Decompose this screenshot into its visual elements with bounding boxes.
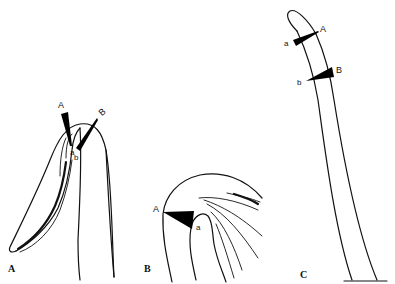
panel-c-marker-a-wedge <box>293 31 319 46</box>
panel-c-tip <box>288 11 316 34</box>
panel-b-label: B <box>144 263 151 274</box>
panel-a-marker-b-label: B <box>96 106 107 118</box>
panel-a-marker-b-tip-label: b <box>74 153 79 162</box>
panel-a-stalk-right <box>106 150 114 277</box>
panel-b-fan-line-5 <box>211 212 242 270</box>
panel-a-lower-lobe <box>16 128 80 251</box>
panel-a-marker-a-label: A <box>58 100 64 110</box>
panel-b-marker-a-label: A <box>153 204 159 214</box>
panel-c-marker-b-tip-label: b <box>297 78 302 87</box>
panel-a: A a B b A <box>8 100 114 280</box>
panel-c-marker-a-tip-label: a <box>284 39 289 48</box>
panel-b-marker-a-tip-label: a <box>196 223 201 232</box>
panel-c-label: C <box>300 269 307 280</box>
panel-a-marker-b-wedge <box>76 118 98 151</box>
panel-a-label: A <box>8 263 16 274</box>
diagram-canvas: A a B b A A a B <box>0 0 395 284</box>
panel-b-marker-a-wedge <box>163 211 194 229</box>
panel-b-fan-line-6 <box>216 224 234 278</box>
panel-b-fan-line-4 <box>207 204 258 258</box>
panel-a-marker-a-wedge <box>61 112 72 146</box>
panel-b: A a B <box>144 174 262 282</box>
panel-a-stalk-left <box>78 128 81 280</box>
panel-c-marker-b-label: B <box>336 65 342 75</box>
panel-c: A a B b C <box>284 11 387 281</box>
panel-c-marker-a-label: A <box>320 24 326 34</box>
